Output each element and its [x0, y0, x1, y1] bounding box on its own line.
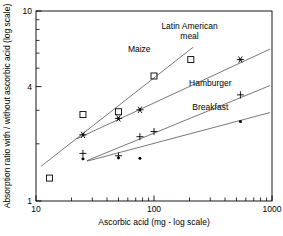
x-axis-title: Ascorbic acid (mg - log scale): [98, 217, 210, 227]
chart-svg: 1010010001410Ascorbic acid (mg - log sca…: [0, 0, 283, 236]
x-tick-label: 10: [31, 204, 41, 214]
y-tick-label: 4: [27, 82, 32, 92]
marker-star: [117, 117, 119, 119]
marker-open-square: [188, 57, 194, 63]
marker-open-square: [80, 112, 86, 118]
marker-star: [239, 58, 241, 60]
y-tick-label: 10: [23, 6, 33, 16]
y-axis-title: Absorption ratio with / without ascorbic…: [2, 4, 12, 209]
marker-star: [82, 134, 84, 136]
marker-open-square: [115, 109, 121, 115]
fit-line-breakfast: [87, 113, 270, 162]
series-label-breakfast: Breakfast: [192, 102, 229, 112]
marker-dot: [117, 156, 120, 159]
marker-dot: [81, 157, 84, 160]
fit-line-hamburger: [87, 86, 270, 161]
series-label-hamburger: Hamburger: [189, 78, 232, 88]
x-tick-label: 1000: [263, 204, 282, 214]
x-tick-label: 100: [147, 204, 161, 214]
marker-dot: [138, 157, 141, 160]
marker-star: [139, 109, 141, 111]
marker-open-square: [46, 175, 52, 181]
marker-dot: [239, 120, 242, 123]
chart-figure: 1010010001410Ascorbic acid (mg - log sca…: [0, 0, 283, 236]
series-label-latin-american: meal: [180, 31, 199, 41]
series-label-maize: Maize: [128, 44, 151, 54]
series-label-latin-american: Latin American: [161, 21, 217, 31]
y-tick-label: 1: [27, 196, 32, 206]
plot-frame: [36, 11, 272, 201]
